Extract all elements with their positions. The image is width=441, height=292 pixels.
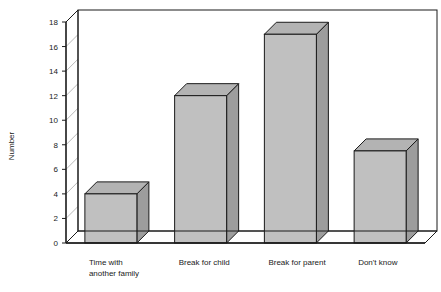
y-tick-label: 12 <box>49 92 58 101</box>
y-tick-label: 0 <box>54 239 59 248</box>
chart-canvas: 024681012141618 Time withanother familyB… <box>0 0 441 292</box>
bar-top-face <box>354 139 418 151</box>
y-tick-label: 10 <box>49 116 58 125</box>
x-category-label: Don't know <box>358 258 398 267</box>
bar-front-face <box>85 194 137 243</box>
bar-top-face <box>85 182 149 194</box>
bar-side-face <box>227 84 239 243</box>
bar-top-face <box>175 84 239 96</box>
bar-side-face <box>316 22 328 243</box>
y-tick-label: 14 <box>49 67 58 76</box>
bar-front-face <box>354 151 406 243</box>
y-axis-title: Number <box>7 131 16 160</box>
bar-front-face <box>264 34 316 243</box>
x-category-label: Time with <box>89 258 123 267</box>
y-tick-label: 4 <box>54 190 59 199</box>
y-tick-label: 2 <box>54 214 59 223</box>
bar <box>175 84 239 243</box>
x-category-label: another family <box>89 269 139 278</box>
bar-side-face <box>406 139 418 243</box>
y-tick-label: 6 <box>54 165 59 174</box>
bar-top-face <box>264 22 328 34</box>
bar <box>264 22 328 243</box>
bar <box>85 182 149 243</box>
bar-front-face <box>175 96 227 243</box>
y-tick-label: 16 <box>49 43 58 52</box>
y-tick-label: 18 <box>49 18 58 27</box>
bar <box>354 139 418 243</box>
x-category-label: Break for child <box>179 258 230 267</box>
y-tick-label: 8 <box>54 141 59 150</box>
x-category-label: Break for parent <box>268 258 326 267</box>
bar-chart: 024681012141618 Time withanother familyB… <box>0 0 441 292</box>
